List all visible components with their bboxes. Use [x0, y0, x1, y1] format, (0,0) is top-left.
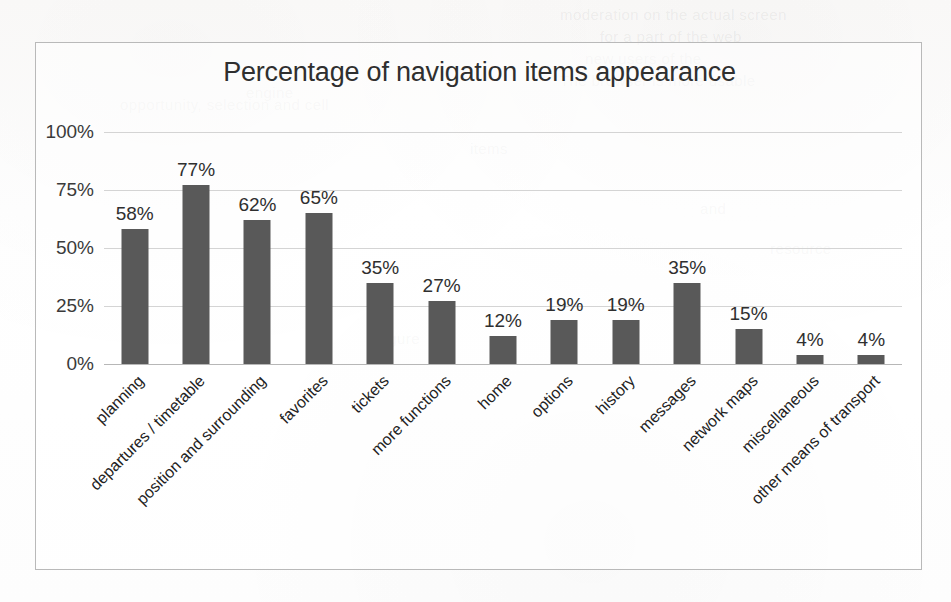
bar-value-label: 77% [177, 159, 215, 181]
bar-value-label: 58% [116, 203, 154, 225]
bar-column: 62%position and surrounding [227, 132, 288, 364]
chart-frame: Percentage of navigation items appearanc… [35, 42, 922, 570]
bar [489, 336, 516, 364]
bar-column: 15%network maps [718, 132, 779, 364]
x-axis-category-label: position and surrounding [134, 372, 271, 509]
bar-column: 4%other means of transport [841, 132, 902, 364]
bar-column: 35%messages [656, 132, 717, 364]
y-axis-tick-label: 100% [45, 121, 94, 143]
bar-value-label: 19% [545, 294, 583, 316]
bar-column: 19%history [595, 132, 656, 364]
bar-column: 27%more functions [411, 132, 472, 364]
x-axis-category-label: home [475, 372, 516, 413]
plot-area: 0%25%50%75%100% 58%planning77%departures… [104, 132, 902, 364]
y-axis-tick-label: 50% [56, 237, 94, 259]
bar-column: 12%home [472, 132, 533, 364]
bar-value-label: 15% [730, 303, 768, 325]
bar-value-label: 12% [484, 310, 522, 332]
x-axis-category-label: departures / timetable [87, 372, 209, 494]
x-axis-category-label: tickets [348, 372, 393, 417]
bar-value-label: 62% [238, 194, 276, 216]
bar-column: 77%departures / timetable [165, 132, 226, 364]
bar [428, 301, 455, 364]
bar [183, 185, 210, 364]
x-axis-category-label: messages [636, 372, 700, 436]
bar [735, 329, 762, 364]
bar [121, 229, 148, 364]
bar-value-label: 35% [361, 257, 399, 279]
bar [244, 220, 271, 364]
bar [796, 355, 823, 364]
x-axis-category-label: planning [92, 372, 148, 428]
bar-value-label: 35% [668, 257, 706, 279]
x-axis-category-label: other means of transport [748, 372, 884, 508]
bar-value-label: 4% [858, 329, 885, 351]
ghost-text-line: moderation on the actual screen [560, 6, 787, 23]
bar-column: 19%options [534, 132, 595, 364]
x-axis-category-label: history [592, 372, 638, 418]
chart-title: Percentage of navigation items appearanc… [36, 57, 923, 88]
bar [674, 283, 701, 364]
bar-column: 4%miscellaneous [779, 132, 840, 364]
bar [551, 320, 578, 364]
y-axis-tick-label: 75% [56, 179, 94, 201]
bar-column: 35%tickets [350, 132, 411, 364]
bar [305, 213, 332, 364]
bar [858, 355, 885, 364]
bar-value-label: 65% [300, 187, 338, 209]
bar [612, 320, 639, 364]
bar [367, 283, 394, 364]
x-axis-category-label: favorites [276, 372, 331, 427]
bar-value-label: 4% [796, 329, 823, 351]
gridline [104, 364, 902, 365]
y-axis-tick-label: 25% [56, 295, 94, 317]
bar-value-label: 27% [423, 275, 461, 297]
y-axis-tick-label: 0% [67, 353, 94, 375]
bar-value-label: 19% [607, 294, 645, 316]
bar-column: 58%planning [104, 132, 165, 364]
x-axis-category-label: options [528, 372, 577, 421]
bar-column: 65%favorites [288, 132, 349, 364]
